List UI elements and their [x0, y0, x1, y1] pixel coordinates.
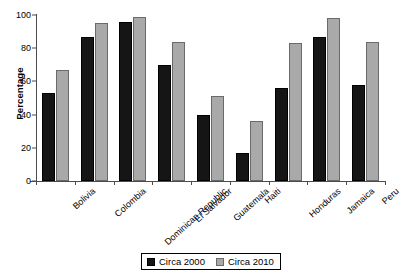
- bar: [119, 22, 132, 181]
- x-axis-tick-mark: [385, 181, 386, 185]
- x-axis-tick-mark: [191, 181, 192, 185]
- bar-group: [313, 15, 340, 181]
- bar-group: [42, 15, 69, 181]
- chart-legend: Circa 2000 Circa 2010: [141, 253, 281, 270]
- bar: [56, 70, 69, 181]
- x-axis-tick-label-text: Peru: [380, 186, 401, 206]
- x-axis-tick-label: Honduras: [307, 186, 343, 220]
- bar: [133, 17, 146, 181]
- y-axis-tick-mark: [32, 114, 36, 115]
- y-axis-tick-mark: [32, 81, 36, 82]
- bar: [81, 37, 94, 181]
- x-axis-tick-mark: [269, 181, 270, 185]
- x-axis-tick-label: Guatemala: [231, 186, 270, 223]
- bar-group: [81, 15, 108, 181]
- bar: [211, 96, 224, 181]
- legend-swatch-icon-circa-2000: [147, 258, 155, 266]
- x-axis-tick-label: Bolivia: [71, 186, 97, 211]
- legend-label-circa-2010: Circa 2010: [228, 256, 274, 267]
- x-axis-line: [30, 181, 386, 182]
- bar: [313, 37, 326, 181]
- bar: [327, 18, 340, 181]
- legend-label-circa-2000: Circa 2000: [159, 256, 205, 267]
- y-axis-tick-mark: [32, 15, 36, 16]
- x-axis-tick-mark: [36, 181, 37, 185]
- bar: [352, 85, 365, 181]
- bar-group: [119, 15, 146, 181]
- plot-area: 020406080100: [36, 15, 385, 181]
- bar: [236, 153, 249, 181]
- bar: [250, 121, 263, 181]
- legend-item-circa-2010: Circa 2010: [216, 256, 274, 267]
- x-axis-tick-label-text: Guatemala: [231, 186, 270, 223]
- bar: [275, 88, 288, 181]
- x-axis-tick-mark: [114, 181, 115, 185]
- x-axis-tick-mark: [75, 181, 76, 185]
- bar-group: [275, 15, 302, 181]
- bar: [366, 42, 379, 181]
- legend-item-circa-2000: Circa 2000: [147, 256, 205, 267]
- bar-group: [352, 15, 379, 181]
- x-axis-tick-label: Colombia: [113, 186, 148, 219]
- x-axis-tick-label-text: Honduras: [307, 186, 343, 220]
- x-axis-tick-mark: [346, 181, 347, 185]
- bar-group: [236, 15, 263, 181]
- bar-group: [158, 15, 185, 181]
- y-axis-title: Percentage: [14, 44, 25, 144]
- x-axis-tick-mark: [307, 181, 308, 185]
- bar: [289, 43, 302, 181]
- bar: [172, 42, 185, 181]
- y-axis-tick-mark: [32, 48, 36, 49]
- legend-swatch-icon-circa-2010: [216, 258, 224, 266]
- bar: [197, 115, 210, 181]
- y-axis-tick-mark: [32, 147, 36, 148]
- x-axis-tick-label: Peru: [380, 186, 401, 206]
- x-axis-tick-mark: [152, 181, 153, 185]
- bar: [158, 65, 171, 181]
- bar: [42, 93, 55, 181]
- bar: [95, 23, 108, 181]
- x-axis-tick-label: Jamaica: [345, 186, 377, 216]
- x-axis-tick-label-text: Bolivia: [71, 186, 97, 211]
- x-axis-tick-mark: [230, 181, 231, 185]
- x-axis-tick-label-text: Colombia: [113, 186, 148, 219]
- x-axis-tick-label-text: Jamaica: [345, 186, 377, 216]
- bar-group: [197, 15, 224, 181]
